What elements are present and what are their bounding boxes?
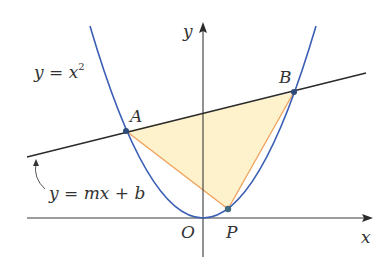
y-axis-label: y bbox=[182, 21, 193, 41]
line-equation-label: y = mx + b bbox=[48, 183, 145, 203]
origin-label: O bbox=[181, 222, 195, 242]
x-axis-label: x bbox=[361, 227, 371, 247]
parabola-equation-label: y = x2 bbox=[33, 61, 85, 82]
point-a-dot bbox=[123, 128, 129, 134]
parabola-diagram: y = x2 y = mx + b y x O A B P bbox=[0, 0, 391, 265]
line-label-callout-arrow bbox=[35, 163, 45, 189]
point-p-dot bbox=[225, 206, 231, 212]
point-b-label: B bbox=[278, 67, 292, 87]
callout-arrowhead-icon bbox=[33, 159, 39, 166]
point-b-dot bbox=[291, 89, 297, 95]
point-a-label: A bbox=[128, 106, 142, 126]
point-p-label: P bbox=[225, 222, 238, 242]
